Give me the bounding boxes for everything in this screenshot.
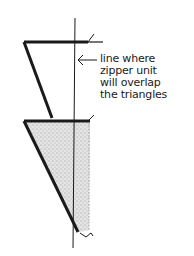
annotation-line-4: the triangles <box>100 89 167 101</box>
lower-tick-mark <box>88 115 94 121</box>
arrow-icon <box>78 55 97 65</box>
lower-triangle <box>24 115 94 237</box>
lower-bottom-hook <box>80 233 93 237</box>
zipper-triangle-diagram <box>0 0 194 256</box>
lower-triangle-fill <box>24 121 90 232</box>
upper-tick-mark <box>88 34 94 42</box>
upper-triangle-left-edge <box>24 42 52 118</box>
annotation-text: line where zipper unit will overlap the … <box>100 53 167 101</box>
upper-triangle <box>24 34 103 118</box>
